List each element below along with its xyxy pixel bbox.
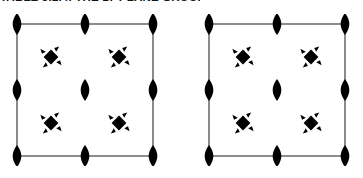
diagram-canvas: TABLE 5.1.4. THE 17 PLANE GROUPS bbox=[0, 0, 363, 178]
twofold-axis bbox=[341, 145, 350, 166]
fourfold-axis bbox=[232, 112, 253, 133]
table-caption: TABLE 5.1.4. THE 17 PLANE GROUPS bbox=[0, 0, 200, 5]
fourfold-axis bbox=[40, 46, 61, 67]
left-unit-cell bbox=[10, 14, 160, 166]
twofold-axis-group bbox=[13, 14, 158, 166]
twofold-axis bbox=[273, 79, 282, 101]
fourfold-axis bbox=[108, 112, 129, 133]
twofold-axis bbox=[149, 145, 158, 166]
twofold-axis bbox=[205, 145, 214, 166]
twofold-axis bbox=[341, 14, 350, 35]
right-unit-cell bbox=[202, 14, 352, 166]
twofold-axis-group bbox=[205, 14, 350, 166]
fourfold-axis bbox=[40, 112, 61, 133]
fourfold-axis bbox=[300, 46, 321, 67]
twofold-axis bbox=[81, 145, 90, 166]
fourfold-axis bbox=[108, 46, 129, 67]
twofold-axis bbox=[13, 145, 22, 166]
twofold-axis bbox=[149, 79, 158, 101]
twofold-axis bbox=[13, 14, 22, 35]
left-unit-cell-svg bbox=[10, 14, 160, 166]
twofold-axis bbox=[273, 14, 282, 35]
twofold-axis bbox=[273, 145, 282, 166]
twofold-axis bbox=[341, 79, 350, 101]
right-unit-cell-svg bbox=[202, 14, 352, 166]
fourfold-axis bbox=[232, 46, 253, 67]
twofold-axis bbox=[205, 79, 214, 101]
twofold-axis bbox=[81, 14, 90, 35]
fourfold-axis bbox=[300, 112, 321, 133]
twofold-axis bbox=[81, 79, 90, 101]
twofold-axis bbox=[149, 14, 158, 35]
twofold-axis bbox=[13, 79, 22, 101]
twofold-axis bbox=[205, 14, 214, 35]
